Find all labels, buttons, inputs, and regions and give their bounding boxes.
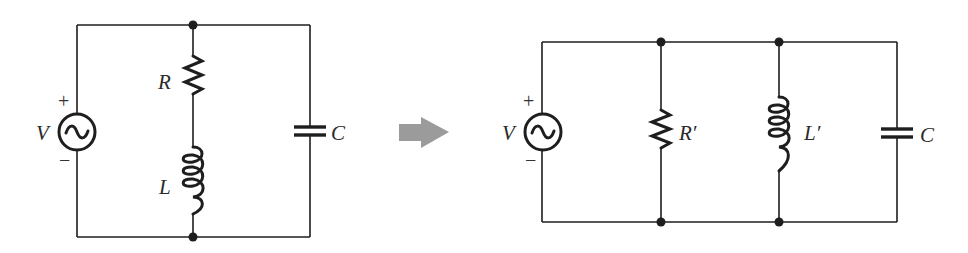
source-label: V xyxy=(36,121,51,145)
inductor-label: L′ xyxy=(803,121,821,145)
capacitor-icon xyxy=(881,129,913,137)
right-circuit: + − V R′ L′ C xyxy=(502,38,935,227)
resistor-icon xyxy=(652,110,670,148)
source-plus-sign: + xyxy=(523,90,534,112)
resistor-icon xyxy=(185,56,202,94)
capacitor-icon xyxy=(294,127,326,135)
source-label: V xyxy=(502,121,517,145)
source-plus-sign: + xyxy=(58,90,69,112)
capacitor-label: C xyxy=(331,121,346,145)
inductor-icon xyxy=(769,97,789,171)
source-minus-sign: − xyxy=(525,149,536,171)
resistor-label: R xyxy=(157,70,171,94)
left-circuit: + − V R L C xyxy=(36,21,346,242)
right-arrow-icon xyxy=(399,117,449,148)
ac-source-icon xyxy=(525,114,561,150)
junction-dot-bottom xyxy=(189,233,198,242)
junction-dot-bottom-1 xyxy=(657,218,666,227)
junction-dot-bottom-2 xyxy=(775,218,784,227)
junction-dot-top-2 xyxy=(775,38,784,47)
inductor-label: L xyxy=(158,175,171,199)
resistor-label: R′ xyxy=(678,121,697,145)
junction-dot-top xyxy=(189,21,198,30)
source-minus-sign: − xyxy=(59,149,70,171)
inductor-icon xyxy=(183,147,203,214)
capacitor-label: C xyxy=(920,123,935,147)
junction-dot-top-1 xyxy=(657,38,666,47)
ac-source-icon xyxy=(59,114,95,150)
